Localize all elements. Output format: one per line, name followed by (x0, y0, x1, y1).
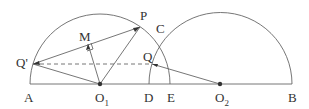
label-A: A (24, 91, 33, 104)
segment-O1P (100, 27, 140, 84)
label-O1-sub: 1 (104, 98, 109, 108)
label-Q-prime: Q' (16, 56, 28, 69)
semicircle-O2 (149, 13, 292, 85)
label-B: B (288, 91, 297, 104)
label-O2: O2 (215, 91, 229, 108)
label-O2-letter: O (215, 90, 224, 105)
label-O1-letter: O (95, 90, 104, 105)
label-D: D (144, 91, 153, 104)
point-O2 (218, 82, 222, 86)
label-Q: Q (143, 50, 152, 63)
arrow-Q (152, 64, 158, 67)
geometry-diagram: A O1 D E O2 B P C M Q Q' (0, 0, 309, 109)
segment-QprimeO1 (33, 64, 100, 84)
label-O1: O1 (95, 91, 109, 108)
label-O2-sub: 2 (224, 98, 229, 108)
label-E: E (167, 91, 175, 104)
diagram-svg (0, 0, 309, 109)
label-C: C (156, 22, 165, 35)
point-O1 (98, 82, 102, 86)
segment-O2Q (152, 64, 220, 84)
label-M: M (79, 30, 91, 43)
label-P: P (140, 9, 147, 22)
